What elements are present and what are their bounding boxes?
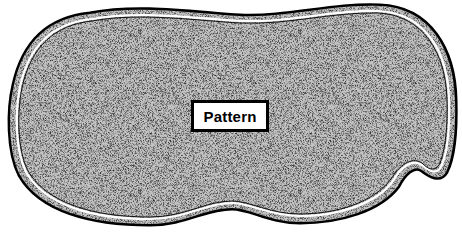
pattern-label-text: Pattern xyxy=(203,108,256,125)
pattern-label: Pattern xyxy=(191,100,269,132)
